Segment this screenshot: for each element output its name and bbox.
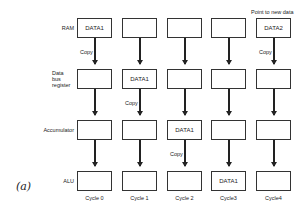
arrow-down-icon bbox=[184, 140, 186, 166]
acc-cell-1 bbox=[122, 120, 157, 140]
row-label-data-bus-register: Data bus register bbox=[52, 70, 74, 88]
ram-cell-2 bbox=[167, 18, 202, 38]
arrow-down-icon bbox=[94, 38, 96, 64]
copy-label: Copy bbox=[125, 100, 138, 106]
cycle-label-1: Cycle 1 bbox=[122, 195, 157, 201]
arrow-down-icon bbox=[139, 140, 141, 166]
row-label-alu: ALU bbox=[50, 178, 74, 184]
arrow-down-icon bbox=[273, 140, 275, 166]
arrow-down-icon bbox=[228, 140, 230, 166]
arrow-down-icon bbox=[184, 89, 186, 115]
arrow-down-icon bbox=[94, 140, 96, 166]
alu-cell-1 bbox=[122, 171, 157, 191]
acc-cell-2: DATA1 bbox=[167, 120, 202, 140]
alu-cell-4 bbox=[256, 171, 291, 191]
acc-cell-0 bbox=[77, 120, 112, 140]
arrow-down-icon bbox=[273, 38, 275, 64]
copy-label: Copy bbox=[80, 49, 93, 55]
dbr-cell-0 bbox=[77, 69, 112, 89]
row-label-line: register bbox=[52, 82, 74, 88]
ram-cell-3 bbox=[211, 18, 246, 38]
cycle-label-4: Cycle4 bbox=[256, 195, 291, 201]
dbr-cell-4 bbox=[256, 69, 291, 89]
cycle-label-2: Cycle 2 bbox=[167, 195, 202, 201]
arrow-down-icon bbox=[139, 38, 141, 64]
ram-cell-0: DATA1 bbox=[77, 18, 112, 38]
cycle-label-0: Cycle 0 bbox=[77, 195, 112, 201]
dbr-cell-2 bbox=[167, 69, 202, 89]
dbr-cell-3 bbox=[211, 69, 246, 89]
acc-cell-3 bbox=[211, 120, 246, 140]
copy-label: Copy bbox=[170, 151, 183, 157]
arrow-down-icon bbox=[228, 38, 230, 64]
ram-cell-1 bbox=[122, 18, 157, 38]
row-label-accumulator: Accumulator bbox=[34, 127, 74, 133]
alu-cell-2 bbox=[167, 171, 202, 191]
arrow-down-icon bbox=[273, 89, 275, 115]
ram-cell-4: DATA2 bbox=[256, 18, 291, 38]
alu-cell-0 bbox=[77, 171, 112, 191]
point-to-new-data-note: Point to new data bbox=[251, 9, 294, 15]
alu-cell-3: DATA1 bbox=[211, 171, 246, 191]
arrow-down-icon bbox=[94, 89, 96, 115]
arrow-down-icon bbox=[139, 89, 141, 115]
row-label-ram: RAM bbox=[50, 25, 74, 31]
arrow-down-icon bbox=[184, 38, 186, 64]
arrow-down-icon bbox=[228, 89, 230, 115]
copy-label: Copy bbox=[259, 49, 272, 55]
acc-cell-4 bbox=[256, 120, 291, 140]
figure-label: (a) bbox=[16, 180, 31, 193]
cycle-label-3: Cycle3 bbox=[211, 195, 246, 201]
dbr-cell-1: DATA1 bbox=[122, 69, 157, 89]
